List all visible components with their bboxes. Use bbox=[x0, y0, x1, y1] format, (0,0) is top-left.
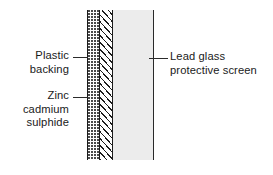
leader-line-lead-glass-protective-screen bbox=[149, 58, 168, 59]
label-zinc-cadmium-sulphide: Zinc cadmium sulphide bbox=[0, 89, 69, 130]
leader-line-zinc-cadmium-sulphide bbox=[73, 97, 88, 98]
leader-line-plastic-backing bbox=[73, 57, 88, 58]
layer-lead-glass-protective-screen bbox=[113, 10, 154, 160]
label-plastic-backing: Plastic backing bbox=[30, 49, 69, 76]
label-lead-glass-protective-screen: Lead glass protective screen bbox=[170, 50, 257, 77]
layer-zinc-cadmium-sulphide bbox=[100, 10, 113, 160]
layer-cross-section-diagram: Plastic backing Zinc cadmium sulphide Le… bbox=[0, 0, 273, 175]
material-layer-stack bbox=[87, 10, 155, 160]
layer-plastic-backing bbox=[87, 10, 100, 160]
